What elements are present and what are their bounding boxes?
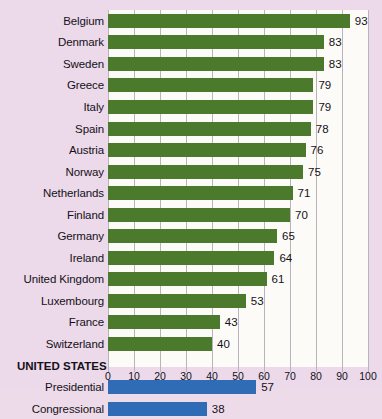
category-label: Finland xyxy=(67,209,104,221)
bar-row: Denmark83 xyxy=(0,32,382,54)
bar-value-label: 79 xyxy=(318,79,331,91)
category-label: Greece xyxy=(67,79,104,91)
bar-row: Netherlands71 xyxy=(0,182,382,204)
bar-value-label: 64 xyxy=(279,252,292,264)
bar-row: Luxembourg53 xyxy=(0,290,382,312)
bar-value-label: 76 xyxy=(311,144,324,156)
category-label: Italy xyxy=(83,101,104,113)
bar-value-label: 70 xyxy=(295,209,308,221)
bar-row: Greece79 xyxy=(0,75,382,97)
bar-row: Austria76 xyxy=(0,139,382,161)
category-label: France xyxy=(69,316,104,328)
axis-tick-label: 70 xyxy=(284,370,296,382)
axis-tick-label: 40 xyxy=(206,370,218,382)
bar-value-label: 43 xyxy=(225,316,238,328)
bar xyxy=(108,294,246,308)
bar xyxy=(108,229,277,243)
bar-value-label: 38 xyxy=(212,403,225,415)
bar-row: Italy79 xyxy=(0,96,382,118)
bar xyxy=(108,78,313,92)
bar-row: Sweden83 xyxy=(0,53,382,75)
bar-row: Switzerland40 xyxy=(0,333,382,355)
bar xyxy=(108,315,220,329)
axis-tick-label: 10 xyxy=(128,370,140,382)
category-label: Switzerland xyxy=(46,338,104,350)
axis-tick-label: 100 xyxy=(359,370,377,382)
bar xyxy=(108,35,324,49)
bar-row: Congressional38 xyxy=(0,398,382,419)
category-label: Spain xyxy=(75,123,104,135)
bar-row: Finland70 xyxy=(0,204,382,226)
bar-row: Spain78 xyxy=(0,118,382,140)
bar xyxy=(108,57,324,71)
bar-row: France43 xyxy=(0,312,382,334)
axis-tick-label: 0 xyxy=(105,370,111,382)
bar-value-label: 40 xyxy=(217,338,230,350)
bar-row: Germany65 xyxy=(0,225,382,247)
bar xyxy=(108,272,267,286)
bar-value-label: 79 xyxy=(318,101,331,113)
bar xyxy=(108,143,306,157)
section-header-label: UNITED STATES xyxy=(17,360,107,372)
category-label: Norway xyxy=(66,166,104,178)
category-label: Sweden xyxy=(63,58,104,70)
x-axis: 0102030405060708090100 xyxy=(108,367,368,390)
category-label: Austria xyxy=(69,144,104,156)
bar xyxy=(108,14,350,28)
bar-value-label: 78 xyxy=(316,123,329,135)
bar xyxy=(108,208,290,222)
bar xyxy=(108,186,293,200)
bar-value-label: 65 xyxy=(282,230,295,242)
bar-value-label: 83 xyxy=(329,58,342,70)
category-label: Congressional xyxy=(32,403,104,415)
category-label: Denmark xyxy=(58,36,104,48)
bar xyxy=(108,122,311,136)
bar-row: Ireland64 xyxy=(0,247,382,269)
category-label: Presidential xyxy=(45,381,104,393)
bar xyxy=(108,165,303,179)
category-label: Luxembourg xyxy=(41,295,104,307)
bar-row: United Kingdom61 xyxy=(0,269,382,291)
axis-tick-label: 80 xyxy=(310,370,322,382)
category-label: United Kingdom xyxy=(24,273,104,285)
axis-tick-label: 30 xyxy=(180,370,192,382)
category-label: Belgium xyxy=(63,15,104,27)
bar-value-label: 75 xyxy=(308,166,321,178)
axis-tick-label: 60 xyxy=(258,370,270,382)
bar-rows: Belgium93Denmark83Sweden83Greece79Italy7… xyxy=(0,10,382,419)
bar-value-label: 93 xyxy=(355,15,368,27)
bar-value-label: 53 xyxy=(251,295,264,307)
bar-value-label: 61 xyxy=(272,273,285,285)
axis-tick-label: 50 xyxy=(232,370,244,382)
bar xyxy=(108,337,212,351)
bar-value-label: 83 xyxy=(329,36,342,48)
bar xyxy=(108,402,207,416)
category-label: Germany xyxy=(57,230,104,242)
category-label: Netherlands xyxy=(43,187,104,199)
bar xyxy=(108,251,274,265)
category-label: Ireland xyxy=(70,252,104,264)
bar-row: Norway75 xyxy=(0,161,382,183)
bar-value-label: 71 xyxy=(298,187,311,199)
axis-tick-label: 90 xyxy=(336,370,348,382)
bar xyxy=(108,100,313,114)
axis-tick-label: 20 xyxy=(154,370,166,382)
bar-row: Belgium93 xyxy=(0,10,382,32)
